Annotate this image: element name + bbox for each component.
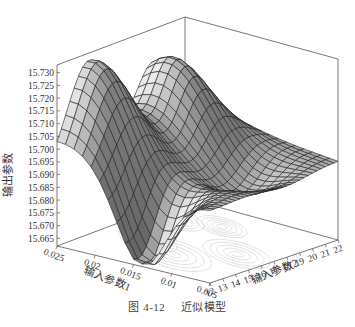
svg-text:15.715: 15.715 [28,106,54,116]
svg-text:15.725: 15.725 [28,81,54,91]
svg-text:15.670: 15.670 [28,221,54,231]
z-axis: 15.66515.67015.67515.68015.68515.69015.6… [28,68,60,244]
caption-number: 图 4-12 [128,301,165,313]
svg-text:15.700: 15.700 [28,145,54,155]
surface-plot: 15.66515.67015.67515.68015.68515.69015.6… [0,0,355,300]
svg-text:21: 21 [319,247,332,260]
svg-text:15.730: 15.730 [28,68,54,78]
svg-text:15.690: 15.690 [28,170,54,180]
svg-text:0.025: 0.025 [42,247,66,264]
svg-text:15.720: 15.720 [28,94,54,104]
svg-text:0.01: 0.01 [159,275,178,290]
figure-caption: 图 4-12 近似模型 [0,298,355,314]
surface-mesh [57,57,338,265]
svg-text:15.695: 15.695 [28,157,54,167]
svg-text:22: 22 [332,243,345,256]
caption-text: 近似模型 [181,301,227,313]
z-axis-label: 输出参数 [1,153,14,197]
svg-text:15.685: 15.685 [28,183,54,193]
svg-text:15.665: 15.665 [28,234,54,244]
svg-text:15.675: 15.675 [28,208,54,218]
svg-text:14: 14 [229,277,242,290]
svg-text:20: 20 [306,251,319,264]
svg-text:15.705: 15.705 [28,132,54,142]
svg-text:15.710: 15.710 [28,119,54,129]
svg-text:13: 13 [217,281,230,294]
svg-text:15.680: 15.680 [28,196,54,206]
